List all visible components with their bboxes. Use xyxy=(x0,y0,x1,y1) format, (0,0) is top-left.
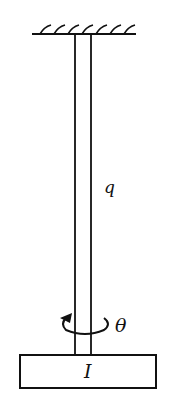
rod-label: q xyxy=(104,177,115,197)
angle-label: θ xyxy=(115,314,127,336)
ceiling-hatching xyxy=(40,25,135,34)
rod xyxy=(75,34,91,355)
disk-label: I xyxy=(83,360,92,382)
rotation-arrow-icon xyxy=(60,313,108,334)
ceiling-support xyxy=(32,25,136,34)
torsion-pendulum-diagram: q θ I xyxy=(0,0,174,413)
